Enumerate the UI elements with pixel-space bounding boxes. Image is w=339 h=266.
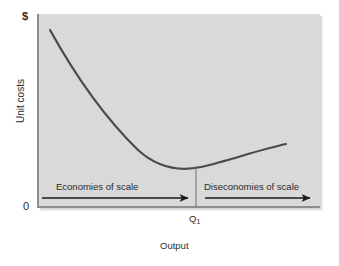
economies-of-scale-label: Economies of scale <box>56 182 138 192</box>
x-axis-line <box>37 206 320 208</box>
y-axis-origin-label: 0 <box>23 201 29 212</box>
economies-of-scale-chart: $ 0 Unit costs Economies of scale Diseco… <box>0 0 339 266</box>
y-axis-top-label: $ <box>22 11 28 22</box>
q1-label-subscript: 1 <box>196 218 200 225</box>
x-axis-title: Output <box>160 241 189 251</box>
diseconomies-of-scale-label: Diseconomies of scale <box>204 182 299 192</box>
y-axis-title: Unit costs <box>16 71 26 131</box>
q1-label: Q1 <box>189 214 200 224</box>
plot-area <box>38 14 320 208</box>
y-axis-line <box>37 14 39 208</box>
